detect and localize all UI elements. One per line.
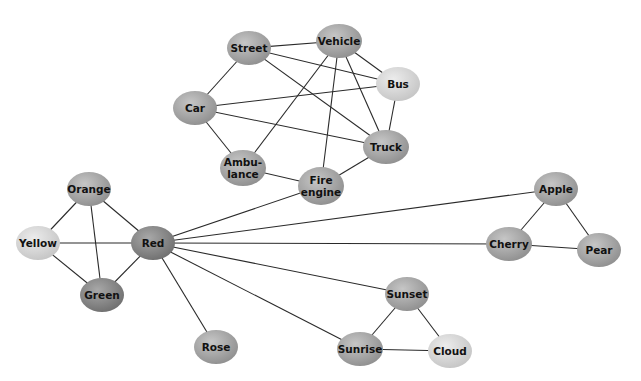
- node-label: Green: [84, 289, 120, 301]
- node-bus: Bus: [376, 67, 420, 101]
- edge-car-truck: [195, 108, 386, 147]
- node-red: Red: [131, 226, 175, 260]
- node-orange: Orange: [67, 172, 111, 206]
- edge-red-sunset: [153, 243, 407, 294]
- node-layer: StreetVehicleBusCarTruckAmbu-lanceFireen…: [16, 24, 621, 368]
- node-label: Yellow: [18, 237, 57, 249]
- node-vehicle: Vehicle: [316, 24, 362, 58]
- edge-vehicle-fire-engine: [321, 41, 339, 186]
- edge-red-sunrise: [153, 243, 360, 349]
- node-label: Bus: [387, 78, 409, 90]
- node-green: Green: [80, 278, 124, 312]
- node-label: Cherry: [489, 238, 529, 250]
- node-label: Sunset: [387, 288, 428, 300]
- node-sunrise: Sunrise: [337, 332, 383, 366]
- node-label: Cloud: [433, 345, 467, 357]
- node-pear: Pear: [577, 233, 621, 267]
- node-label: Rose: [202, 341, 231, 353]
- edge-fire-engine-red: [153, 186, 321, 243]
- node-label: Truck: [370, 141, 403, 153]
- node-truck: Truck: [363, 130, 409, 164]
- node-label: Ambu-lance: [224, 156, 262, 180]
- node-label: Orange: [67, 183, 110, 195]
- node-label: Sunrise: [338, 343, 383, 355]
- node-cherry: Cherry: [486, 227, 532, 261]
- node-fire-engine: Fireengine: [298, 167, 344, 205]
- node-ambulance: Ambu-lance: [220, 150, 266, 186]
- semantic-network-diagram: StreetVehicleBusCarTruckAmbu-lanceFireen…: [0, 0, 641, 381]
- node-apple: Apple: [534, 172, 578, 206]
- node-label: Street: [230, 42, 267, 54]
- node-car: Car: [173, 91, 217, 125]
- node-label: Apple: [539, 183, 573, 195]
- node-sunset: Sunset: [385, 277, 429, 311]
- node-street: Street: [227, 31, 271, 65]
- node-cloud: Cloud: [428, 334, 472, 368]
- node-label: Vehicle: [318, 35, 361, 47]
- node-label: Pear: [585, 244, 613, 256]
- node-label: Car: [185, 102, 206, 114]
- node-rose: Rose: [194, 330, 238, 364]
- node-label: Red: [142, 237, 165, 249]
- edge-red-cherry: [153, 243, 509, 244]
- node-yellow: Yellow: [16, 226, 60, 260]
